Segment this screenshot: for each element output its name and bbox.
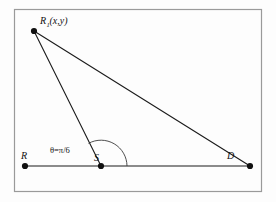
point-R1 — [31, 28, 37, 34]
label-point-R1-coords: (x,y) — [50, 15, 69, 27]
label-angle-theta: θ=π/6 — [50, 145, 70, 155]
point-R — [22, 163, 28, 169]
label-point-R1-main: R — [39, 15, 46, 26]
label-point-D: D — [226, 150, 235, 161]
figure-border — [15, 10, 262, 192]
figure-container: R 1 (x,y) R S D θ=π/6 — [0, 0, 276, 202]
point-S — [98, 163, 104, 169]
label-point-S: S — [94, 152, 99, 163]
point-D — [247, 163, 253, 169]
geometry-diagram: R 1 (x,y) R S D θ=π/6 — [0, 0, 276, 202]
label-point-R: R — [20, 150, 27, 161]
